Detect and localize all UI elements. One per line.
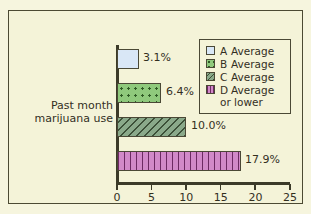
x-axis-tick-5 [151,184,153,190]
x-axis-tick-25 [289,184,291,190]
legend-swatch-c-icon [206,72,215,81]
legend: A Average B Average C Average D Average … [199,39,291,114]
x-axis-tick-15 [220,184,222,190]
legend-label-a: Average [231,45,274,57]
x-axis-tick-label-10: 10 [173,191,199,204]
bar-b-average [117,83,161,103]
bar-a-average [117,49,139,69]
legend-grade-b: B [220,58,231,70]
legend-swatch-d-icon [206,85,215,94]
x-axis-tick-20 [254,184,256,190]
figure-container: 0 5 10 15 20 25 Past month marijuana use… [0,0,311,214]
legend-label-c: Average [231,71,274,83]
category-axis-label: Past month marijuana use [21,99,113,125]
category-axis-label-line2: marijuana use [21,112,113,125]
legend-item-b-average: B Average [206,57,286,70]
bar-d-average-or-lower [117,151,241,171]
x-axis-tick-label-15: 15 [208,191,234,204]
legend-item-d-average-or-lower: D Average [206,83,286,96]
bar-value-d-average-or-lower: 17.9% [245,153,280,166]
legend-swatch-b-icon [206,59,215,68]
bar-value-a-average: 3.1% [143,51,171,64]
legend-item-c-average: C Average [206,70,286,83]
x-axis-tick-label-5: 5 [139,191,165,204]
x-axis-tick-label-0: 0 [104,191,130,204]
legend-swatch-a-icon [206,46,215,55]
x-axis-line [116,182,290,185]
legend-label-b: Average [231,58,274,70]
bar-value-b-average: 6.4% [166,85,194,98]
legend-item-a-average: A Average [206,44,286,57]
chart-frame: 0 5 10 15 20 25 Past month marijuana use… [8,10,303,204]
x-axis-tick-label-20: 20 [242,191,268,204]
legend-grade-a: A [220,45,231,57]
bar-c-average [117,117,186,137]
x-axis-tick-10 [185,184,187,190]
category-axis-label-line1: Past month [21,99,113,112]
bar-value-c-average: 10.0% [191,119,226,132]
x-axis-tick-0 [116,184,118,190]
x-axis-tick-label-25: 25 [277,191,303,204]
legend-label-d-continued: or lower [206,96,286,109]
legend-label-d: Average [231,84,274,96]
legend-grade-c: C [220,71,231,83]
legend-grade-d: D [220,84,231,96]
